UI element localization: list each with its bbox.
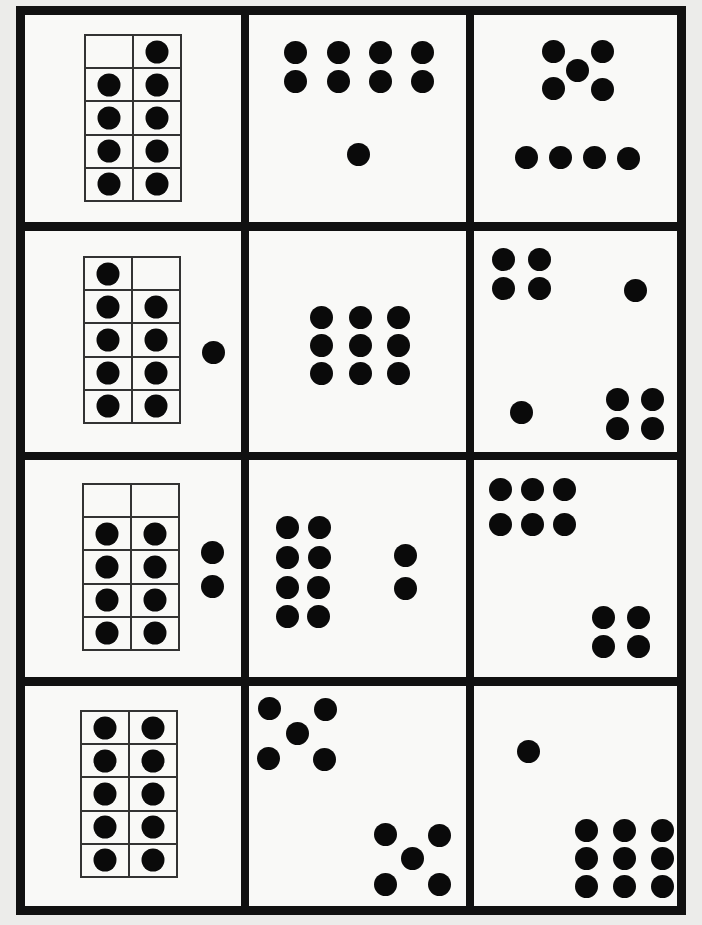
ten-frame-cell xyxy=(84,290,132,323)
dot-icon xyxy=(98,73,121,96)
dot-icon xyxy=(387,306,410,329)
dot-icon xyxy=(575,819,598,842)
dot-icon xyxy=(606,388,629,411)
ten-frame-cell xyxy=(131,550,179,583)
dot-icon xyxy=(310,362,333,385)
dot-icon xyxy=(347,143,370,166)
dot-icon xyxy=(96,555,119,578)
ten-frame xyxy=(83,256,181,424)
dot-icon xyxy=(276,576,299,599)
dot-icon xyxy=(651,875,674,898)
ten-frame-cell xyxy=(132,290,180,323)
ten-frame xyxy=(84,34,182,202)
dot-icon xyxy=(517,740,540,763)
dot-icon xyxy=(349,334,372,357)
dot-icon xyxy=(528,248,551,271)
dot-icon xyxy=(201,541,224,564)
dot-icon xyxy=(142,849,165,872)
dot-icon xyxy=(624,279,647,302)
dot-icon xyxy=(510,401,533,424)
dot-icon xyxy=(613,875,636,898)
dot-icon xyxy=(349,306,372,329)
dot-icon xyxy=(97,262,120,285)
dot-icon xyxy=(145,395,168,418)
dot-icon xyxy=(327,41,350,64)
dot-icon xyxy=(327,70,350,93)
dot-icon xyxy=(542,40,565,63)
dot-icon xyxy=(387,334,410,357)
dot-icon xyxy=(97,328,120,351)
ten-frame-cell xyxy=(84,390,132,423)
dot-icon xyxy=(97,395,120,418)
ten-frame-cell xyxy=(84,257,132,290)
dot-icon xyxy=(97,295,120,318)
dot-icon xyxy=(308,516,331,539)
dot-icon xyxy=(575,875,598,898)
dot-icon xyxy=(98,106,121,129)
ten-frame-cell xyxy=(85,168,133,201)
dot-icon xyxy=(145,328,168,351)
dot-icon xyxy=(98,173,121,196)
dot-icon xyxy=(369,41,392,64)
dot-icon xyxy=(146,106,169,129)
dot-icon xyxy=(145,295,168,318)
dot-icon xyxy=(144,622,167,645)
ten-frame-cell xyxy=(131,584,179,617)
dot-icon xyxy=(592,606,615,629)
dot-icon xyxy=(308,546,331,569)
ten-frame-cell xyxy=(83,550,131,583)
ten-frame-cell xyxy=(129,811,177,844)
ten-frame-cell xyxy=(131,617,179,650)
card-r3c2: 10 xyxy=(249,460,466,677)
dot-icon xyxy=(394,577,417,600)
dot-icon xyxy=(374,873,397,896)
dot-icon xyxy=(627,635,650,658)
dot-icon xyxy=(142,782,165,805)
dot-icon xyxy=(553,513,576,536)
dot-icon xyxy=(286,722,309,745)
dot-icon xyxy=(411,70,434,93)
ten-frame-cell xyxy=(133,35,181,68)
dot-icon xyxy=(201,575,224,598)
card-r1c1: 9 xyxy=(25,15,241,222)
card-r3c3: 10 xyxy=(474,460,677,677)
dot-icon xyxy=(144,522,167,545)
ten-frame xyxy=(82,483,180,651)
dot-icon xyxy=(145,362,168,385)
dot-icon xyxy=(146,140,169,163)
dot-icon xyxy=(349,362,372,385)
dot-icon xyxy=(284,41,307,64)
dot-icon xyxy=(374,823,397,846)
card-r3c1: 10 xyxy=(25,460,241,677)
dot-icon xyxy=(641,417,664,440)
dot-icon xyxy=(492,248,515,271)
card-r1c2: 9 xyxy=(249,15,466,222)
dot-icon xyxy=(257,747,280,770)
dot-icon xyxy=(94,716,117,739)
card-r4c2: 10 xyxy=(249,686,466,906)
ten-frame-cell xyxy=(81,744,129,777)
ten-frame-cell xyxy=(132,323,180,356)
dot-icon xyxy=(284,70,307,93)
dot-icon xyxy=(144,555,167,578)
dot-icon xyxy=(369,70,392,93)
ten-frame-cell xyxy=(131,517,179,550)
ten-frame-cell xyxy=(129,844,177,877)
dot-icon xyxy=(96,589,119,612)
ten-frame-cell xyxy=(132,357,180,390)
ten-frame-cell xyxy=(84,323,132,356)
dot-icon xyxy=(528,277,551,300)
dot-icon xyxy=(94,782,117,805)
dot-icon xyxy=(627,606,650,629)
dot-icon xyxy=(96,622,119,645)
dot-icon xyxy=(613,847,636,870)
dot-icon xyxy=(144,589,167,612)
ten-frame-cell xyxy=(83,484,131,517)
ten-frame-cell xyxy=(83,617,131,650)
dot-icon xyxy=(489,478,512,501)
ten-frame-cell xyxy=(129,777,177,810)
dot-icon xyxy=(606,417,629,440)
dot-icon xyxy=(258,697,281,720)
dot-icon xyxy=(310,334,333,357)
card-r1c3: 9 xyxy=(474,15,677,222)
